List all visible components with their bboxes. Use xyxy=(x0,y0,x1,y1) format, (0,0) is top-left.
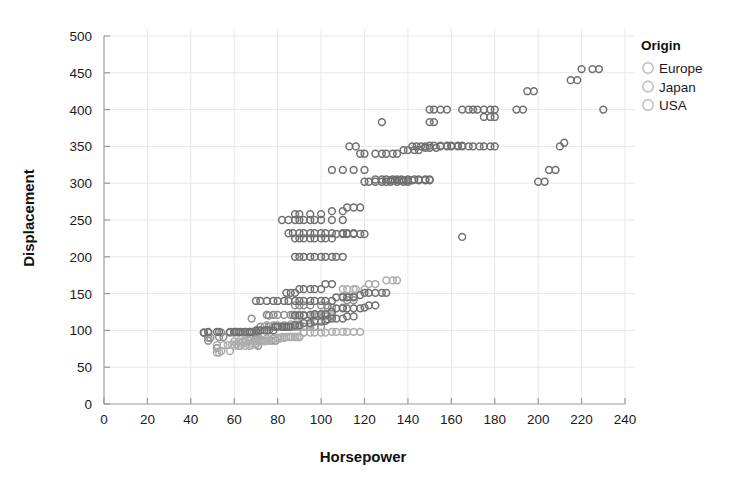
data-point xyxy=(383,289,390,296)
data-point xyxy=(292,289,299,296)
x-tick-label: 220 xyxy=(570,412,593,427)
x-tick-label: 200 xyxy=(527,412,550,427)
y-tick-label: 300 xyxy=(69,176,92,191)
legend-item-label: USA xyxy=(659,98,687,113)
legend-item-usa[interactable]: USA xyxy=(643,98,687,113)
y-tick-label: 100 xyxy=(69,323,92,338)
data-point xyxy=(561,139,568,146)
data-point xyxy=(339,167,346,174)
legend-marker-icon xyxy=(643,100,653,110)
y-tick-label: 0 xyxy=(84,397,92,412)
data-point xyxy=(378,119,385,126)
x-tick-label: 0 xyxy=(100,412,108,427)
x-tick-label: 160 xyxy=(440,412,463,427)
y-axis-title: Displacement xyxy=(20,169,37,267)
legend-entries: EuropeJapanUSA xyxy=(643,61,703,113)
data-point xyxy=(339,208,346,215)
series-usa xyxy=(200,66,606,336)
x-tick-label: 140 xyxy=(397,412,420,427)
legend-item-japan[interactable]: Japan xyxy=(643,80,696,95)
chart-canvas: 020406080100120140160180200220240 050100… xyxy=(0,0,736,489)
data-point xyxy=(394,150,401,157)
data-point xyxy=(394,277,401,284)
legend-marker-icon xyxy=(643,81,653,91)
legend-marker-icon xyxy=(643,63,653,73)
y-tick-label: 250 xyxy=(69,213,92,228)
legend-title: Origin xyxy=(641,38,681,53)
data-point xyxy=(459,234,466,241)
y-tick-labels: 050100150200250300350400450500 xyxy=(69,29,92,412)
x-axis-title: Horsepower xyxy=(320,448,407,465)
data-point xyxy=(329,167,336,174)
legend-item-europe[interactable]: Europe xyxy=(643,61,703,76)
y-tick-label: 150 xyxy=(69,287,92,302)
y-tick-label: 200 xyxy=(69,250,92,265)
y-tick-label: 450 xyxy=(69,66,92,81)
data-point xyxy=(248,315,255,322)
x-tick-label: 120 xyxy=(353,412,376,427)
data-point xyxy=(350,167,357,174)
x-tick-label: 60 xyxy=(227,412,242,427)
legend: Origin EuropeJapanUSA xyxy=(641,38,703,113)
y-tick-label: 50 xyxy=(77,360,92,375)
x-tick-labels: 020406080100120140160180200220240 xyxy=(100,412,636,427)
x-tick-label: 80 xyxy=(270,412,285,427)
y-tick-label: 350 xyxy=(69,139,92,154)
legend-item-label: Europe xyxy=(659,61,703,76)
x-tick-label: 20 xyxy=(140,412,155,427)
x-tick-label: 40 xyxy=(183,412,198,427)
x-tick-label: 100 xyxy=(310,412,333,427)
scatter-plot-figure: 020406080100120140160180200220240 050100… xyxy=(0,0,736,489)
x-tick-label: 240 xyxy=(614,412,637,427)
data-point xyxy=(431,119,438,126)
y-tick-label: 400 xyxy=(69,103,92,118)
x-tick-label: 180 xyxy=(483,412,506,427)
gridlines xyxy=(104,28,635,404)
y-tick-label: 500 xyxy=(69,29,92,44)
data-point xyxy=(329,208,336,215)
legend-item-label: Japan xyxy=(659,80,696,95)
